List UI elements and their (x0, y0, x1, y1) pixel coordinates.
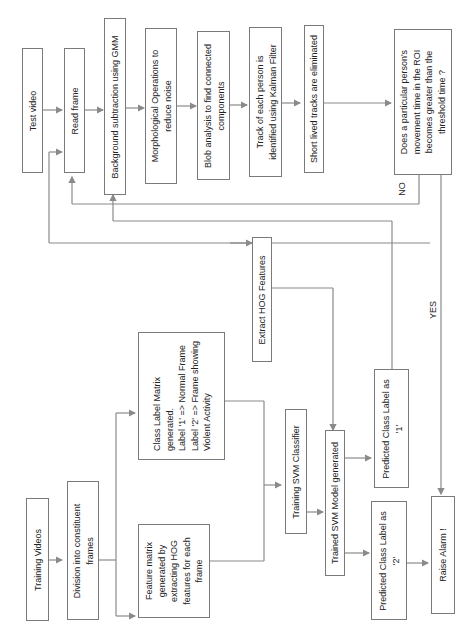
training-videos-box: Training Videos (26, 498, 49, 621)
training-videos-label: Training Videos (31, 528, 44, 590)
morph-ops-label: Morphological Operations to reduce noise (149, 50, 174, 163)
predicted-2-label: Predicted Class Label as '2' (377, 511, 402, 611)
track-kalman-box: Track of each person is identified using… (249, 27, 282, 177)
no-label: NO (397, 182, 407, 196)
feature-matrix-box: Feature matrix generated by extracting H… (138, 524, 210, 618)
test-video-label: Test video (26, 90, 39, 131)
flowchart-canvas: Test video Read frame Background subtrac… (0, 0, 471, 631)
predicted-1-box: Predicted Class Label as '1' (374, 369, 409, 488)
class-label-matrix-box: Class Label Matrix generated. Label '1' … (138, 332, 225, 460)
morph-ops-box: Morphological Operations to reduce noise (145, 28, 177, 184)
yes-label: YES (428, 301, 438, 319)
trained-svm-label: Trained SVM Model generated (329, 442, 342, 564)
predicted-2-box: Predicted Class Label as '2' (371, 501, 407, 620)
predicted-1-label: Predicted Class Label as '1' (379, 379, 404, 479)
short-lived-label: Short lived tracks are eliminated (308, 35, 321, 163)
decision-label: Does a particular person's movement time… (398, 50, 448, 155)
blob-analysis-box: Blob analysis to find connected componen… (197, 31, 230, 180)
blob-analysis-label: Blob analysis to find connected componen… (201, 43, 226, 167)
trained-svm-box: Trained SVM Model generated (325, 430, 345, 576)
read-frame-label: Read frame (68, 87, 81, 134)
class-label-matrix-label: Class Label Matrix generated. Label '1' … (150, 341, 213, 451)
training-svm-box: Training SVM Classifier (285, 409, 307, 534)
short-lived-box: Short lived tracks are eliminated (304, 25, 324, 173)
test-video-box: Test video (22, 48, 43, 173)
raise-alarm-box: Raise Alarm ! (431, 496, 455, 614)
track-kalman-label: Track of each person is identified using… (253, 44, 278, 160)
read-frame-box: Read frame (64, 48, 85, 173)
bg-subtraction-box: Background subtraction using GMM (104, 18, 126, 195)
decision-box: Does a particular person's movement time… (394, 29, 452, 175)
bg-subtraction-label: Background subtraction using GMM (109, 35, 122, 178)
training-svm-label: Training SVM Classifier (290, 425, 303, 519)
division-frames-label: Division into constituent frames (71, 503, 96, 598)
division-frames-box: Division into constituent frames (67, 481, 99, 620)
extract-hog-box: Extract HOG Features (252, 237, 272, 362)
extract-hog-label: Extract HOG Features (256, 255, 269, 344)
raise-alarm-label: Raise Alarm ! (437, 528, 450, 582)
feature-matrix-label: Feature matrix generated by extracting H… (143, 537, 206, 605)
